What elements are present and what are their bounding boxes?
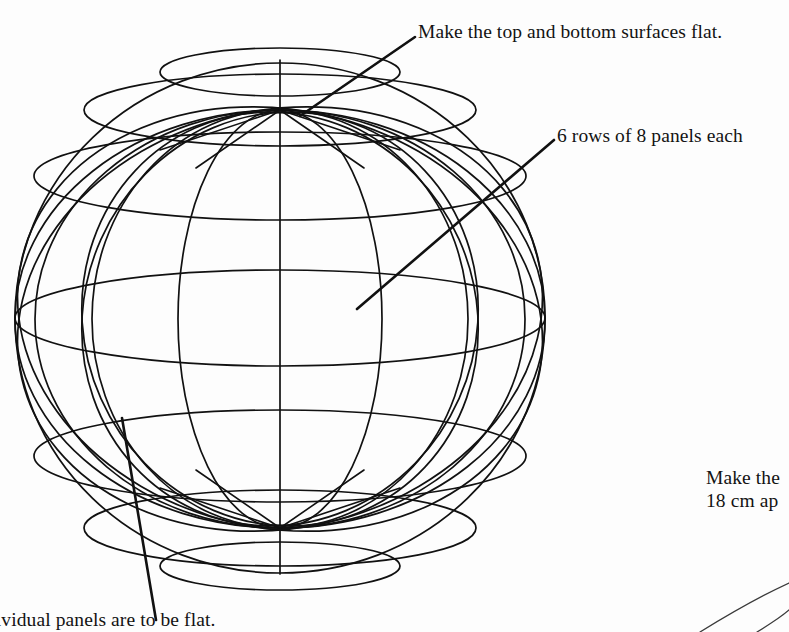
leader-line-panels (122, 418, 156, 620)
annotation-rows: 6 rows of 8 panels each (557, 124, 743, 147)
annotation-top-surfaces: Make the top and bottom surfaces flat. (418, 20, 722, 43)
meridian-6 (0, 56, 585, 583)
sphere-wireframe-drawing (0, 0, 789, 632)
diagram-canvas: Make the top and bottom surfaces flat. 6… (0, 0, 789, 632)
meridian-curves (0, 48, 585, 589)
annotation-spacing: Make the 18 cm ap (706, 466, 780, 512)
annotation-spacing-line1: Make the (706, 466, 780, 489)
annotation-spacing-line2: 18 cm ap (706, 489, 780, 512)
corner-arcs (700, 583, 789, 632)
corner-arc-outer (700, 583, 789, 632)
meridian-5 (0, 56, 585, 583)
annotation-panels: dividual panels are to be flat. (0, 608, 215, 631)
corner-arc-inner (757, 610, 789, 632)
leader-line-rows (357, 140, 554, 309)
